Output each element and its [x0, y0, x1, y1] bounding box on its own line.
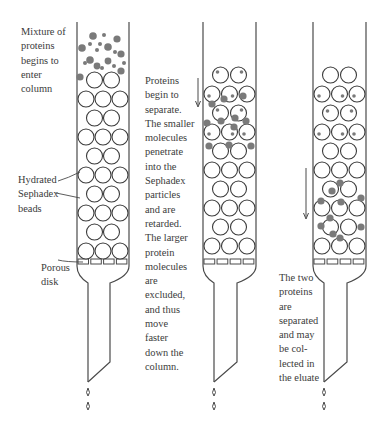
sephadex-bead — [323, 105, 339, 121]
large-protein — [117, 50, 124, 57]
large-protein — [203, 119, 210, 126]
small-protein — [350, 109, 354, 113]
large-protein — [104, 43, 112, 51]
sephadex-bead — [78, 243, 94, 259]
eluate-drop-icon — [323, 388, 326, 396]
small-protein — [317, 94, 321, 98]
column-taper-right — [214, 266, 256, 382]
small-protein — [100, 66, 104, 70]
small-protein — [95, 48, 99, 52]
sephadex-bead — [213, 67, 229, 83]
large-protein — [76, 73, 83, 80]
small-protein — [240, 70, 244, 74]
sephadex-bead — [78, 91, 94, 107]
porous-disk-segment — [204, 259, 215, 264]
sephadex-bead — [239, 162, 255, 178]
sephadex-bead — [204, 200, 220, 216]
sephadex-bead — [95, 205, 111, 221]
small-protein — [352, 132, 356, 136]
sephadex-bead — [104, 186, 120, 202]
porous-disk-segment — [91, 259, 102, 264]
large-protein — [329, 230, 336, 237]
sephadex-bead — [104, 110, 120, 126]
small-protein — [207, 94, 211, 98]
porous-disk-segment — [230, 259, 241, 264]
sephadex-bead — [104, 148, 120, 164]
small-protein — [122, 61, 126, 65]
sephadex-bead — [323, 67, 339, 83]
small-protein — [83, 61, 87, 65]
sephadex-bead — [87, 186, 103, 202]
sephadex-bead — [204, 162, 220, 178]
large-protein — [317, 222, 324, 229]
large-protein — [113, 35, 120, 42]
small-protein — [326, 109, 330, 113]
sephadex-bead — [341, 143, 357, 159]
large-protein — [242, 117, 249, 124]
sephadex-bead — [222, 238, 238, 254]
large-protein — [94, 63, 101, 70]
eluate-drop-icon — [87, 402, 90, 410]
sephadex-bead — [213, 181, 229, 197]
sephadex-bead — [314, 124, 330, 140]
large-protein — [105, 58, 112, 65]
columns — [56, 22, 366, 410]
sephadex-bead — [341, 105, 357, 121]
porous-disk-segment — [104, 259, 115, 264]
sephadex-bead — [78, 167, 94, 183]
sephadex-bead — [314, 162, 330, 178]
porous-disk-segment — [353, 259, 364, 264]
porous-disk-segment — [78, 259, 89, 264]
sephadex-bead — [239, 238, 255, 254]
porous-disk-segment — [340, 259, 351, 264]
sephadex-bead — [95, 167, 111, 183]
small-protein — [112, 64, 116, 68]
small-protein — [216, 70, 220, 74]
large-protein — [328, 187, 335, 194]
sephadex-bead — [104, 72, 120, 88]
sephadex-bead — [112, 129, 128, 145]
small-protein — [216, 108, 220, 112]
sephadex-bead — [87, 110, 103, 126]
sephadex-bead — [112, 205, 128, 221]
sephadex-bead — [112, 167, 128, 183]
sephadex-bead — [323, 143, 339, 159]
eluate-drop-icon — [213, 402, 216, 410]
porous-disk-segment — [116, 259, 127, 264]
sephadex-bead — [341, 67, 357, 83]
large-protein — [326, 214, 333, 221]
large-protein — [357, 194, 364, 201]
sephadex-bead — [314, 86, 330, 102]
label-porous-disk: Porous disk — [41, 261, 70, 290]
column-taper-left — [203, 266, 214, 382]
sephadex-bead — [78, 205, 94, 221]
sephadex-bead — [349, 200, 365, 216]
sephadex-bead — [231, 67, 247, 83]
large-protein — [247, 142, 254, 149]
large-protein — [78, 44, 86, 52]
sephadex-bead — [104, 224, 120, 240]
eluate-drop-icon — [213, 388, 216, 396]
sephadex-bead — [231, 181, 247, 197]
sephadex-bead — [112, 243, 128, 259]
sephadex-bead — [95, 91, 111, 107]
large-protein — [336, 234, 343, 241]
sephadex-bead — [222, 200, 238, 216]
large-protein — [220, 95, 227, 102]
column-taper-left — [77, 266, 88, 382]
sephadex-bead — [349, 162, 365, 178]
small-protein — [317, 132, 321, 136]
sephadex-bead — [332, 124, 348, 140]
large-protein — [317, 197, 324, 204]
column-taper-right — [324, 266, 366, 382]
sephadex-bead — [332, 162, 348, 178]
sephadex-bead — [222, 162, 238, 178]
small-protein — [242, 132, 246, 136]
label-proteins-separated: The two proteins are separated and may b… — [279, 271, 319, 385]
large-protein — [357, 223, 364, 230]
sephadex-bead — [314, 238, 330, 254]
large-protein — [89, 32, 97, 40]
sephadex-bead — [231, 143, 247, 159]
large-protein — [230, 123, 237, 130]
porous-disk-segment — [327, 259, 338, 264]
